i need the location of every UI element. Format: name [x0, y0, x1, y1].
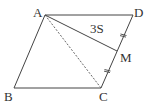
- vertex-label-m: M: [120, 50, 132, 65]
- equal-mark-dm: [120, 34, 127, 37]
- equal-mark-mc: [104, 70, 111, 73]
- vertex-label-a: A: [33, 5, 43, 20]
- vertex-label-b: B: [4, 89, 13, 104]
- vertex-label-c: C: [99, 89, 108, 104]
- edge-ba: [14, 15, 45, 88]
- parallelogram-diagram: A D M B C 3S: [0, 0, 150, 104]
- segment-am: [45, 15, 117, 51]
- area-label-3s: 3S: [90, 21, 104, 36]
- vertex-label-d: D: [134, 5, 143, 20]
